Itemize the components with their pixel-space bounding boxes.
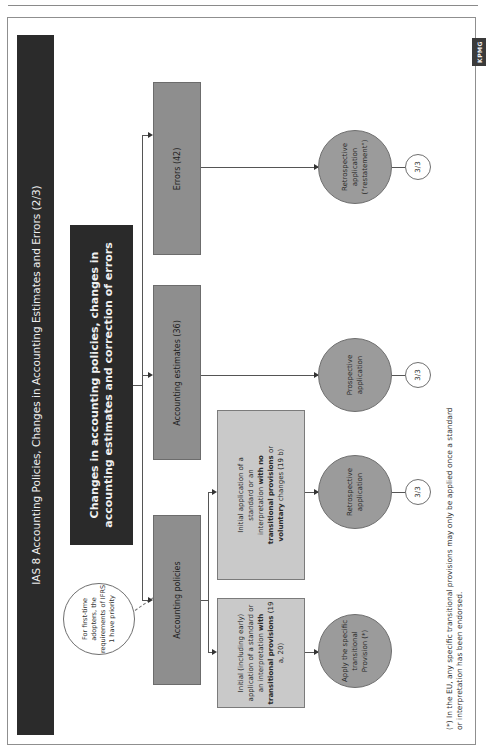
page-top-rule	[8, 5, 478, 6]
category-accounting-policies: Accounting policies	[153, 515, 201, 685]
page-ref-text: 3/3	[414, 360, 422, 390]
outcome-label: Prospective application	[345, 340, 365, 410]
footnote-text: (*) In the EU, any specific transitional…	[445, 400, 465, 730]
connector-policies-split	[208, 492, 209, 652]
page-title: IAS 8 Accounting Policies, Changes in Ac…	[30, 40, 42, 730]
connector-page-ref-1	[392, 492, 405, 493]
branch-no-transitional-provisions: Initial application of a standard or an …	[217, 410, 305, 580]
page-ref-text: 3/3	[414, 152, 422, 182]
branch-text: Initial (including early) application of…	[236, 601, 286, 706]
central-topic-box: Changes in accounting policies, changes …	[70, 225, 133, 545]
kpmg-logo: KPMG	[472, 38, 486, 66]
page-ref-link[interactable]: 3/3	[405, 362, 431, 388]
outcome-prospective-application: Prospective application	[318, 338, 392, 412]
branch-with-transitional-provisions: Initial (including early) application of…	[217, 598, 305, 708]
page-ref-link[interactable]: 3/3	[405, 479, 431, 505]
ifrs1-note-text: For first-time adopters, the requirement…	[81, 584, 117, 654]
connector-vertical-main	[142, 135, 143, 600]
category-label: Errors (42)	[173, 84, 182, 254]
central-topic-text: Changes in accounting policies, changes …	[88, 230, 116, 540]
ifrs1-note-circle: For first-time adopters, the requirement…	[63, 583, 135, 655]
category-accounting-estimates: Accounting estimates (36)	[153, 285, 201, 460]
footnote: (*) In the EU, any specific transitional…	[440, 400, 470, 730]
category-errors: Errors (42)	[153, 82, 201, 255]
connector-page-ref-3	[392, 167, 405, 168]
logo-text: KPMG	[476, 38, 483, 66]
connector-page-ref-2	[392, 375, 405, 376]
outcome-label: Retrospective application	[345, 457, 365, 527]
connector-to-outcome-4	[201, 167, 318, 168]
outcome-apply-transitional-provision: Apply the specific transitional Provisio…	[318, 614, 392, 688]
connector-to-outcome-3	[201, 375, 318, 376]
category-label: Accounting estimates (36)	[173, 288, 182, 458]
outcome-retrospective-application: Retrospective application	[318, 455, 392, 529]
branch-text: Initial application of a standard or an …	[236, 445, 286, 545]
title-bar: IAS 8 Accounting Policies, Changes in Ac…	[17, 35, 54, 735]
outcome-label: Retrospective application ("restatement"…	[340, 132, 370, 202]
category-label: Accounting policies	[173, 515, 182, 685]
page-ref-link[interactable]: 3/3	[405, 154, 431, 180]
outcome-label: Apply the specific transitional Provisio…	[340, 616, 370, 686]
outcome-retrospective-restatement: Retrospective application ("restatement"…	[318, 130, 392, 204]
page-ref-text: 3/3	[414, 477, 422, 507]
